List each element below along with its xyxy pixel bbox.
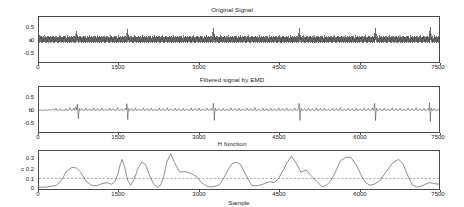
panel-title-original-signal: Original Signal — [0, 6, 464, 14]
x-tick-label-c-0: 0 — [36, 191, 39, 198]
x-tick-label-a-4: 6000 — [353, 64, 366, 71]
y-tick-label-a-0: 0.5 — [14, 24, 34, 30]
x-tick-label-a-5: 7500 — [431, 64, 444, 71]
panel-title-filtered-signal: Filtered signal by EMD — [0, 76, 464, 84]
x-axis-label-sample: Sample — [229, 199, 250, 206]
y-tick-label-c-3: 0 — [13, 185, 34, 191]
plot-area-original-signal — [38, 16, 440, 63]
h-function-trace — [39, 151, 439, 189]
plot-area-h-function — [38, 150, 440, 190]
x-tick-label-a-2: 3000 — [192, 64, 205, 71]
x-tick-label-c-1: 1500 — [111, 191, 124, 198]
y-tick-label-b-0: 0.5 — [14, 94, 34, 100]
panel-filtered-signal: Filtered signal by EMD b 0.5 0 -0.5 0 15… — [0, 76, 464, 138]
y-tick-label-b-1: 0 — [14, 107, 34, 113]
x-tick-label-c-3: 4500 — [272, 191, 285, 198]
x-tick-label-c-5: 7500 — [431, 191, 444, 198]
signal-trace-filtered — [39, 87, 439, 132]
panel-h-function: H function c 0.3 0.2 0.1 0 0 1500 3000 4… — [0, 140, 464, 207]
plot-area-filtered-signal — [38, 86, 440, 133]
h-function-curve — [39, 154, 439, 188]
x-tick-label-a-3: 4500 — [272, 64, 285, 71]
y-tick-label-c-0: 0.3 — [13, 155, 34, 161]
panel-title-h-function: H function — [0, 140, 464, 148]
panel-original-signal: Original Signal a 0.5 0 -0.5 0 1500 3000 — [0, 6, 464, 68]
signal-trace-original — [39, 17, 439, 62]
y-tick-label-a-1: 0 — [14, 37, 34, 43]
y-tick-label-b-2: -0.5 — [12, 120, 34, 126]
y-tick-label-a-2: -0.5 — [12, 50, 34, 56]
x-tick-label-a-1: 1500 — [111, 64, 124, 71]
y-tick-label-c-1: 0.2 — [13, 166, 34, 172]
y-tick-label-c-2: 0.1 — [13, 176, 34, 182]
x-tick-label-c-4: 6000 — [353, 191, 366, 198]
figure-ecg-emd-analysis: Original Signal a 0.5 0 -0.5 0 1500 3000 — [0, 0, 464, 207]
x-tick-label-c-2: 3000 — [192, 191, 205, 198]
x-tick-label-a-0: 0 — [36, 64, 39, 71]
